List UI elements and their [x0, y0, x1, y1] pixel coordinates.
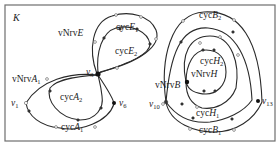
graph-label-k: K [12, 12, 21, 23]
node [100, 107, 103, 110]
label-cyc-e2: cycE2 [115, 46, 137, 57]
label-cyc-h1: cycH1 [196, 108, 219, 119]
node [115, 14, 118, 17]
label-cyc-b1: cycB1 [199, 125, 221, 136]
vertex-v10 [164, 100, 168, 104]
vertex-v6 [112, 101, 116, 105]
node [233, 129, 236, 132]
label-cyc-e1: cycE1 [116, 22, 138, 33]
node [232, 31, 235, 34]
node [192, 117, 195, 120]
label-vnrv-b: vNrvB [155, 80, 181, 90]
vertex-v3 [95, 71, 100, 76]
node [103, 37, 106, 40]
node [202, 49, 205, 52]
node [28, 110, 31, 113]
label-cyc-b2: cycB2 [199, 10, 221, 21]
node [46, 78, 49, 81]
node [182, 20, 185, 23]
node [140, 16, 143, 19]
node [162, 103, 165, 106]
node [214, 90, 217, 93]
node [55, 126, 58, 129]
node [94, 41, 97, 44]
node [180, 41, 183, 44]
node [199, 42, 202, 45]
label-cyc-a2: cycA2 [60, 92, 82, 103]
label-cyc-a1: cycA1 [61, 122, 83, 133]
figure-frame [5, 5, 275, 141]
node [203, 90, 206, 93]
node [155, 38, 158, 41]
node [116, 67, 119, 70]
node [77, 119, 80, 122]
node [233, 19, 236, 22]
label-vnrv-a1: vNrvA1 [12, 74, 41, 85]
vertex-vnrv-h [185, 80, 189, 84]
label-cyc-h2: cycH2 [200, 56, 223, 67]
node [237, 54, 240, 57]
node [213, 49, 216, 52]
graph-diagram: K vNrvE cycE1 cycE2 [0, 0, 280, 150]
vertex-v13 [256, 99, 260, 103]
node [219, 36, 222, 39]
vertex-v1 [24, 101, 27, 104]
node [94, 126, 97, 129]
node [231, 118, 234, 121]
label-vnrv-h: vNrvH [191, 69, 219, 79]
node [181, 103, 184, 106]
node [189, 128, 192, 131]
label-vnrv-e: vNrvE [58, 28, 84, 38]
node [149, 43, 152, 46]
node [49, 90, 52, 93]
